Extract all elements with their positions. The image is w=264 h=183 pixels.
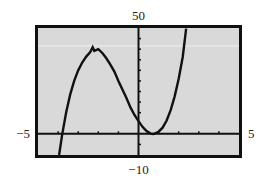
xmin-label: −5	[16, 126, 30, 141]
ymax-label: 50	[132, 8, 145, 23]
xmax-label: 5	[248, 126, 255, 141]
graphing-calculator-plot: 50 −10 −5 5	[0, 0, 264, 183]
ymin-label: −10	[128, 162, 148, 177]
